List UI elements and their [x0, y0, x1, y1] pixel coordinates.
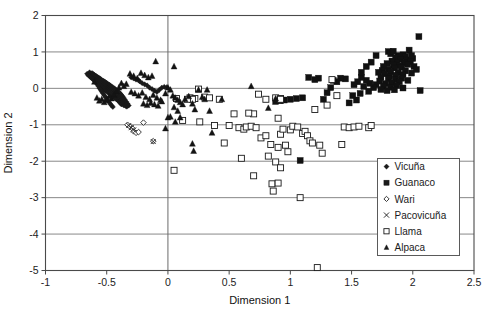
data-point	[231, 111, 237, 117]
filled-square-icon	[384, 180, 389, 185]
data-point	[293, 96, 299, 102]
data-point	[300, 95, 306, 101]
data-point	[314, 265, 320, 271]
data-point	[197, 119, 203, 125]
data-point	[226, 123, 232, 129]
data-point	[324, 102, 330, 108]
data-point	[306, 74, 312, 80]
scatter-plot-figure: -1-0.500.511.522.5 -5-4-3-2-1012 Dimensi…	[0, 0, 491, 314]
data-point	[238, 155, 244, 161]
data-point	[390, 48, 396, 54]
data-point	[334, 93, 340, 99]
legend-label: Llama	[395, 226, 423, 237]
data-point	[309, 140, 315, 146]
x-axis-title: Dimension 1	[229, 294, 290, 306]
data-point	[295, 124, 301, 130]
data-point	[417, 88, 423, 94]
figure-background	[0, 0, 491, 314]
x-tick-label: 2	[410, 276, 416, 288]
data-point	[280, 126, 286, 132]
data-point	[368, 123, 374, 129]
legend[interactable]: VicuñaGuanacoWariPacovicuñaLlamaAlpaca	[378, 159, 460, 256]
y-tick-label: -3	[29, 191, 38, 203]
data-point	[246, 110, 252, 116]
data-point	[320, 96, 326, 102]
data-point	[413, 66, 419, 72]
data-point	[278, 96, 284, 102]
data-point	[253, 125, 259, 131]
data-point	[265, 153, 271, 159]
data-point	[312, 106, 318, 112]
data-point	[329, 77, 335, 83]
data-point	[263, 133, 269, 139]
data-point	[270, 188, 276, 194]
data-point	[263, 96, 269, 102]
x-tick-label: 0.5	[222, 276, 237, 288]
data-point	[416, 34, 422, 40]
legend-box	[378, 159, 460, 256]
legend-label: Vicuña	[395, 161, 426, 172]
data-point	[400, 85, 406, 91]
legend-label: Pacovicuña	[395, 210, 447, 221]
data-point	[406, 47, 412, 53]
x-tick-label: 0	[165, 276, 171, 288]
data-point	[297, 157, 303, 163]
data-point	[378, 86, 384, 92]
data-point	[171, 167, 177, 173]
data-point	[405, 77, 411, 83]
data-point	[297, 195, 303, 201]
data-point	[312, 77, 318, 83]
data-point	[351, 82, 357, 88]
data-point	[269, 181, 275, 187]
data-point	[207, 95, 213, 101]
data-point	[268, 141, 274, 147]
data-point	[287, 96, 293, 102]
data-point	[357, 90, 363, 96]
legend-label: Guanaco	[395, 177, 436, 188]
legend-label: Alpaca	[395, 242, 426, 253]
data-point	[405, 61, 411, 67]
data-point	[356, 123, 362, 129]
legend-label: Wari	[395, 194, 415, 205]
data-point	[221, 140, 227, 146]
data-point	[211, 123, 217, 129]
x-tick-label: 2.5	[467, 276, 482, 288]
y-tick-label: -1	[29, 118, 38, 130]
data-point	[275, 180, 281, 186]
y-tick-label: -5	[29, 264, 38, 276]
plot-svg: -1-0.500.511.522.5 -5-4-3-2-1012 Dimensi…	[0, 0, 491, 314]
data-point	[353, 97, 359, 103]
x-tick-label: 1.5	[344, 276, 359, 288]
data-point	[317, 142, 323, 148]
data-point	[256, 91, 262, 97]
x-tick-label: 1	[287, 276, 293, 288]
data-point	[273, 159, 279, 165]
data-point	[366, 88, 372, 94]
y-tick-label: -2	[29, 155, 38, 167]
data-point	[324, 90, 330, 96]
data-point	[339, 141, 345, 147]
data-point	[409, 53, 415, 59]
data-point	[363, 64, 369, 70]
data-point	[278, 165, 284, 171]
x-tick-label: -1	[41, 276, 50, 288]
data-point	[391, 87, 397, 93]
data-point	[384, 88, 390, 94]
data-point	[346, 100, 352, 106]
y-tick-label: 2	[33, 9, 39, 21]
data-point	[373, 53, 379, 59]
open-square-icon	[384, 229, 389, 234]
data-point	[319, 150, 325, 156]
y-tick-label: 0	[33, 82, 39, 94]
y-tick-label: -4	[29, 228, 38, 240]
data-point	[275, 115, 281, 121]
data-point	[251, 173, 257, 179]
y-tick-label: 1	[33, 46, 39, 58]
data-point	[285, 149, 291, 155]
data-point	[282, 142, 288, 148]
y-axis-title: Dimension 2	[2, 112, 14, 173]
data-point	[358, 69, 364, 75]
x-tick-label: -0.5	[98, 276, 116, 288]
data-point	[275, 144, 281, 150]
